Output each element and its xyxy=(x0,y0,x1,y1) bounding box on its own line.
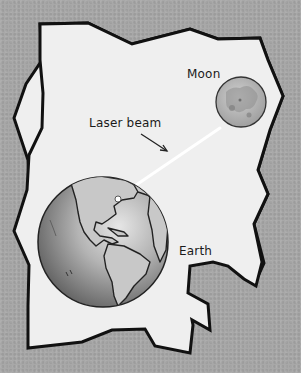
laser-beam-label: Laser beam xyxy=(89,116,161,130)
paper-shape xyxy=(14,23,283,353)
diagram-canvas xyxy=(0,0,301,373)
moon-label: Moon xyxy=(187,67,220,81)
earth-globe-icon xyxy=(38,176,168,307)
earth-label: Earth xyxy=(179,244,212,258)
moon-icon xyxy=(216,77,266,127)
